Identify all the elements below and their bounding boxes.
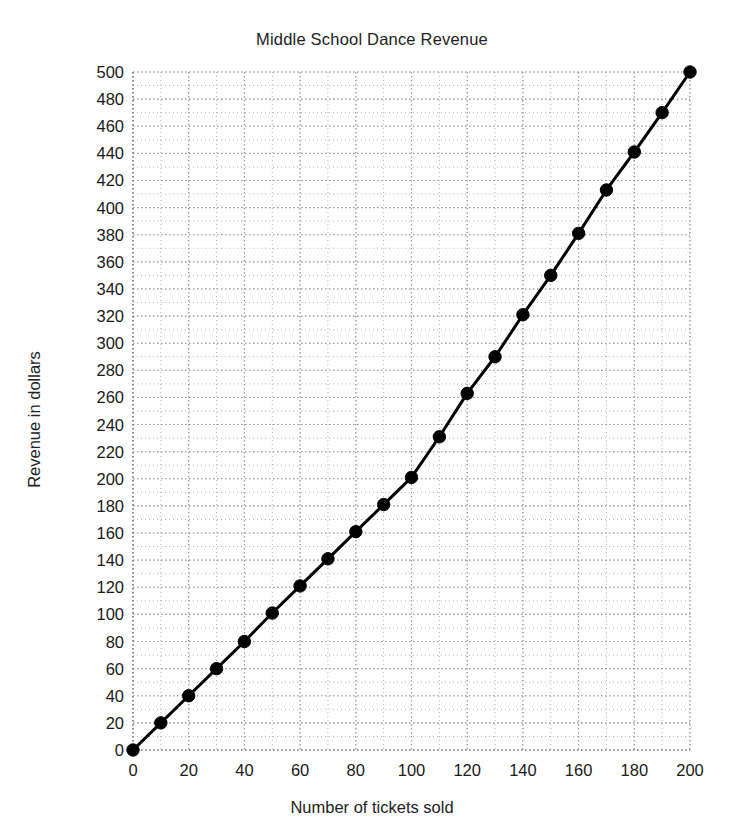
data-point <box>377 498 389 510</box>
y-tick-label: 200 <box>96 470 124 488</box>
x-tick-label: 180 <box>621 761 649 779</box>
data-point <box>489 351 501 363</box>
data-point <box>461 387 473 399</box>
y-tick-label: 220 <box>96 443 124 461</box>
y-tick-label: 320 <box>96 307 124 325</box>
data-point <box>183 690 195 702</box>
data-point <box>545 269 557 281</box>
y-tick-label: 100 <box>96 605 124 623</box>
data-point <box>433 431 445 443</box>
y-tick-label: 160 <box>96 524 124 542</box>
y-tick-label: 80 <box>106 633 124 651</box>
x-tick-label: 120 <box>453 761 481 779</box>
y-tick-label: 500 <box>96 63 124 81</box>
y-tick-label: 120 <box>96 578 124 596</box>
y-tick-label: 20 <box>106 714 124 732</box>
x-tick-label: 40 <box>235 761 253 779</box>
x-tick-label: 200 <box>676 761 704 779</box>
data-point <box>210 662 222 674</box>
y-tick-label: 460 <box>96 117 124 135</box>
x-tick-label: 140 <box>509 761 537 779</box>
y-tick-label: 400 <box>96 199 124 217</box>
data-point <box>127 744 139 756</box>
y-tick-label: 420 <box>96 171 124 189</box>
data-point <box>155 717 167 729</box>
data-point <box>322 553 334 565</box>
data-point <box>656 106 668 118</box>
data-point <box>405 471 417 483</box>
data-point <box>600 184 612 196</box>
data-point <box>684 66 696 78</box>
data-point <box>294 580 306 592</box>
data-point <box>350 525 362 537</box>
plot-area: 0204060801001201401601802002202402602803… <box>0 0 744 838</box>
y-tick-label: 240 <box>96 416 124 434</box>
x-tick-label: 0 <box>128 761 137 779</box>
x-tick-label: 80 <box>347 761 365 779</box>
data-point <box>266 607 278 619</box>
x-tick-label: 20 <box>180 761 198 779</box>
data-point <box>238 635 250 647</box>
y-tick-label: 280 <box>96 361 124 379</box>
y-tick-label: 300 <box>96 334 124 352</box>
y-tick-label: 140 <box>96 551 124 569</box>
chart-container: Middle School Dance Revenue Revenue in d… <box>0 0 744 838</box>
y-tick-label: 60 <box>106 660 124 678</box>
y-tick-label: 340 <box>96 280 124 298</box>
y-tick-label: 380 <box>96 226 124 244</box>
y-tick-label: 40 <box>106 687 124 705</box>
data-point <box>517 309 529 321</box>
x-tick-label: 100 <box>398 761 426 779</box>
x-tick-label: 60 <box>291 761 309 779</box>
y-tick-label: 180 <box>96 497 124 515</box>
data-point <box>628 146 640 158</box>
y-tick-label: 0 <box>115 741 124 759</box>
y-tick-label: 480 <box>96 90 124 108</box>
y-tick-label: 360 <box>96 253 124 271</box>
y-tick-labels: 0204060801001201401601802002202402602803… <box>96 63 124 759</box>
x-tick-labels: 020406080100120140160180200 <box>128 761 703 779</box>
y-tick-label: 260 <box>96 388 124 406</box>
data-point <box>572 227 584 239</box>
x-tick-label: 160 <box>565 761 593 779</box>
y-tick-label: 440 <box>96 144 124 162</box>
